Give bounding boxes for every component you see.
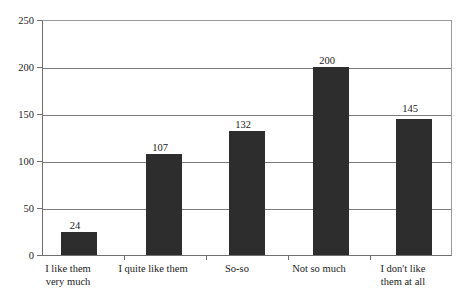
y-axis-tick-label: 150: [2, 109, 34, 120]
bar-not-so-much: [313, 67, 349, 255]
x-axis-category-label-line1: I like them: [29, 262, 107, 275]
bar-i-dont-like-them-at-all: [396, 119, 432, 255]
gridline-150: [43, 115, 451, 116]
x-axis-category-label: Not so much: [280, 262, 358, 275]
x-axis-category-label-line2: very much: [29, 275, 107, 288]
bar-value-label: 200: [294, 55, 360, 66]
bar-chart: 250 200 150 100 50 0 24 107 132 200 145 …: [0, 0, 466, 296]
bar-value-label: 132: [210, 119, 276, 130]
y-axis-tick-label: 0: [2, 250, 34, 261]
bar-so-so: [229, 131, 265, 255]
y-axis-tick-label: 50: [2, 203, 34, 214]
x-axis-tick-mark: [124, 256, 125, 260]
x-axis-category-label-line1: Not so much: [280, 262, 358, 275]
x-axis-tick-mark: [370, 256, 371, 260]
y-axis-tick-label: 200: [2, 62, 34, 73]
y-axis-tick-label: 250: [2, 15, 34, 26]
x-axis-tick-mark: [206, 256, 207, 260]
x-axis-category-label-line1: I don't like: [364, 262, 442, 275]
x-axis-category-label: I don't like them at all: [364, 262, 442, 288]
bar-i-quite-like-them: [146, 154, 182, 255]
x-axis-category-label: I quite like them: [108, 262, 198, 275]
x-axis-tick-mark: [288, 256, 289, 260]
y-axis-tick-label: 100: [2, 156, 34, 167]
bar-value-label: 24: [42, 220, 108, 231]
bar-value-label: 145: [377, 103, 443, 114]
x-axis-category-label: I like them very much: [29, 262, 107, 288]
bar-value-label: 107: [127, 142, 193, 153]
x-axis-category-label-line1: So-so: [198, 262, 276, 275]
x-axis-category-label: So-so: [198, 262, 276, 275]
bar-i-like-them-very-much: [61, 232, 97, 255]
x-axis-category-label-line1: I quite like them: [108, 262, 198, 275]
x-axis-category-label-line2: them at all: [364, 275, 442, 288]
gridline-200: [43, 68, 451, 69]
